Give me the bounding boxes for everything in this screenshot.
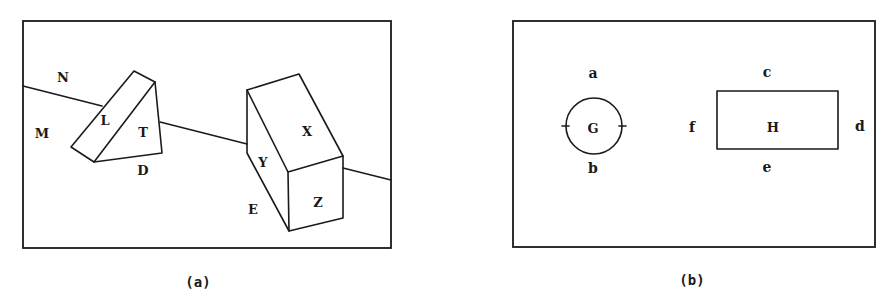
panel-b-caption: (b) [679,272,704,288]
edge-label-e: e [763,159,772,175]
edge-label-f: f [689,119,696,135]
panel-b: a b c d e f G H (b) [513,21,875,288]
region-label-g: G [587,121,598,136]
edge-label-b: b [588,160,598,176]
region-label-t: T [138,125,148,140]
edge-label-d: d [855,118,865,134]
region-label-y: Y [257,155,268,170]
edge-label-c: c [763,64,772,80]
box-outline [247,74,343,231]
horizon-line-middle [160,122,247,144]
panel-a-caption: (a) [185,274,210,290]
region-label-e: E [248,202,258,217]
horizon-line-left [23,86,102,106]
region-label-d: D [137,163,148,178]
wedge-object [71,71,162,162]
region-label-n: N [57,70,69,85]
box-vertical-edge [288,172,289,231]
region-label-x: X [302,124,313,139]
panel-a: N M L T D X Y Z E (a) [23,21,391,290]
horizon-line-right [343,168,391,180]
region-label-m: M [35,126,49,141]
wedge-outline [71,71,162,162]
region-label-h: H [767,120,779,135]
figure: N M L T D X Y Z E (a) a b c d e f G H (b… [0,0,889,300]
region-label-z: Z [313,195,323,210]
region-label-l: L [100,113,109,128]
edge-label-a: a [588,65,597,81]
box-object [247,74,343,231]
